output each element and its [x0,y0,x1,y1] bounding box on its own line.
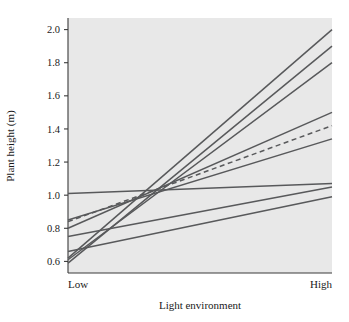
y-tick-label: 1.8 [47,57,60,68]
y-axis-title: Plant height (m) [4,110,17,182]
x-axis-title: Light environment [159,299,241,311]
y-tick-label: 0.6 [47,256,60,267]
x-tick-label-high: High [310,278,333,290]
y-tick-label: 0.8 [47,223,60,234]
y-tick-label: 1.2 [47,157,60,168]
y-tick-label: 1.6 [47,90,60,101]
reaction-norm-figure: 0.60.81.01.21.41.61.82.0 Low High Light … [0,0,349,322]
y-tick-label: 1.4 [47,124,61,135]
y-tick-label: 2.0 [47,24,60,35]
chart-canvas: 0.60.81.01.21.41.61.82.0 Low High Light … [0,0,349,322]
plot-area-background [68,18,332,273]
y-tick-label: 1.0 [47,190,60,201]
y-axis-ticks: 0.60.81.01.21.41.61.82.0 [47,24,68,267]
x-tick-label-low: Low [68,278,88,290]
